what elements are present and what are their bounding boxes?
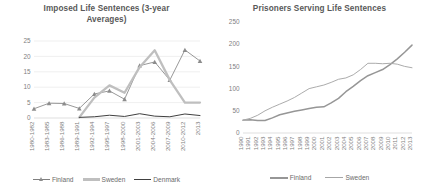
legend-item-finland: Finland [33,176,74,183]
svg-text:2004: 2004 [340,136,347,150]
plot-area-left: 05101520251980-19821983-19851986-1988198… [0,0,213,187]
svg-text:2004-2006: 2004-2006 [149,121,156,151]
line-marker-finland-icon [33,179,50,180]
svg-text:1983-1985: 1983-1985 [43,121,50,151]
svg-text:1991: 1991 [244,136,251,150]
legend-label-sweden: Sweden [102,176,126,183]
svg-text:2009: 2009 [377,136,384,150]
legend-right: Finland Sweden [213,174,426,181]
legend-left: Finland Sweden Denmark [0,176,213,183]
chart-prisoners-serving-life-sentences: Prisoners Serving Life Sentences 0501001… [213,0,426,187]
svg-text:1997: 1997 [288,136,295,150]
svg-text:2000: 2000 [310,136,317,150]
svg-text:2011: 2011 [391,136,398,150]
line-marker-sweden-icon [325,177,343,178]
svg-text:15: 15 [23,68,31,75]
svg-text:1998: 1998 [296,136,303,150]
svg-text:2013: 2013 [194,121,201,135]
line-marker-finland-icon [270,177,288,179]
svg-text:2003: 2003 [333,136,340,150]
svg-text:1999: 1999 [303,136,310,150]
svg-text:20: 20 [23,53,31,60]
svg-text:1990: 1990 [237,136,244,150]
svg-text:5: 5 [27,99,31,106]
legend-item-sweden: Sweden [83,176,126,183]
svg-text:1994: 1994 [266,136,273,150]
svg-text:1995-1997: 1995-1997 [103,121,110,151]
legend-item-sweden: Sweden [325,174,369,181]
svg-text:1995: 1995 [274,136,281,150]
svg-text:2001: 2001 [318,136,325,150]
line-marker-denmark-icon [134,179,151,180]
line-marker-sweden-icon [83,178,100,180]
svg-text:1980-1982: 1980-1982 [28,121,35,151]
svg-text:2007-2009: 2007-2009 [164,121,171,151]
plot-area-right: 0501001502002501990199119921993199419951… [213,0,426,187]
svg-text:2010-2012: 2010-2012 [179,121,186,151]
legend-item-denmark: Denmark [134,176,180,183]
svg-text:2010: 2010 [384,136,391,150]
svg-text:2002: 2002 [325,136,332,150]
svg-text:2005: 2005 [347,136,354,150]
svg-text:100: 100 [229,85,240,92]
svg-text:50: 50 [232,107,240,114]
svg-text:1989-1991: 1989-1991 [73,121,80,151]
legend-label-finland: Finland [52,176,74,183]
svg-text:0: 0 [27,114,31,121]
svg-text:25: 25 [23,37,31,44]
svg-text:2001-2003: 2001-2003 [134,121,141,151]
figure-container: Imposed Life Sentences (3-year Averages)… [0,0,426,187]
svg-text:2012: 2012 [399,136,406,150]
svg-text:2008: 2008 [369,136,376,150]
legend-label-sweden: Sweden [345,174,369,181]
legend-label-denmark: Denmark [153,176,180,183]
svg-text:2007: 2007 [362,136,369,150]
svg-text:250: 250 [229,18,240,25]
chart-imposed-life-sentences: Imposed Life Sentences (3-year Averages)… [0,0,213,187]
svg-text:1998-2000: 1998-2000 [119,121,126,151]
svg-text:1993: 1993 [259,136,266,150]
svg-text:2006: 2006 [355,136,362,150]
svg-text:2013: 2013 [406,136,413,150]
svg-text:1992: 1992 [252,136,259,150]
svg-text:150: 150 [229,63,240,70]
legend-label-finland: Finland [290,174,312,181]
svg-text:0: 0 [236,129,240,136]
svg-text:200: 200 [229,40,240,47]
svg-text:1992-1994: 1992-1994 [88,121,95,151]
svg-text:1986-1988: 1986-1988 [58,121,65,151]
svg-text:10: 10 [23,83,31,90]
svg-text:1996: 1996 [281,136,288,150]
legend-item-finland: Finland [270,174,312,181]
